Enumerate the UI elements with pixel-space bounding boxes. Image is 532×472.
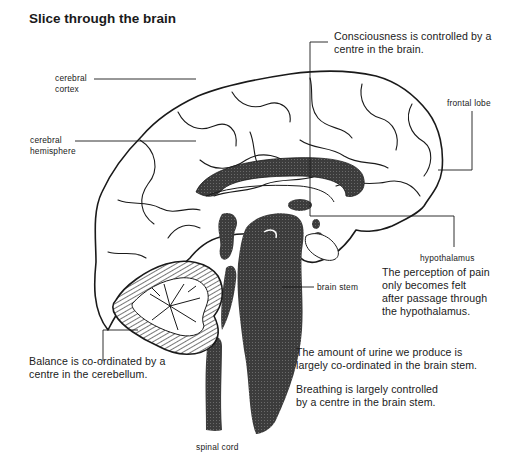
label-hypothalamus: hypothalamus: [420, 253, 475, 264]
note-consciousness: Consciousness is controlled by a centre …: [334, 30, 491, 56]
label-line: hemisphere: [30, 146, 76, 157]
note-line: The perception of pain: [382, 266, 490, 279]
label-cerebral-hemisphere: cerebral hemisphere: [30, 135, 76, 157]
label-line: cortex: [55, 84, 87, 95]
brain-stem: [237, 213, 303, 434]
note-line: largely co-ordinated in the brain stem.: [296, 359, 477, 372]
label-line: cerebral: [30, 135, 76, 146]
spinal-cord: [206, 337, 223, 431]
note-line: after passage through: [382, 292, 490, 305]
brain-illustration: [0, 0, 532, 472]
note-line: by a centre in the brain stem.: [296, 396, 438, 409]
note-urine: The amount of urine we produce is largel…: [296, 346, 477, 372]
note-line: Balance is co-ordinated by a: [29, 355, 165, 368]
note-line: The amount of urine we produce is: [296, 346, 477, 359]
note-breathing: Breathing is largely controlled by a cen…: [296, 383, 438, 409]
note-line: centre in the cerebellum.: [29, 368, 165, 381]
label-brain-stem: brain stem: [317, 282, 358, 293]
label-cerebral-cortex: cerebral cortex: [55, 73, 87, 95]
note-pain: The perception of pain only becomes felt…: [382, 266, 490, 318]
note-line: centre in the brain.: [334, 43, 491, 56]
note-line: Breathing is largely controlled: [296, 383, 438, 396]
note-line: only becomes felt: [382, 279, 490, 292]
label-line: cerebral: [55, 73, 87, 84]
note-balance: Balance is co-ordinated by a centre in t…: [29, 355, 165, 381]
label-spinal-cord: spinal cord: [196, 442, 239, 453]
label-frontal-lobe: frontal lobe: [447, 98, 491, 109]
note-line: the hypothalamus.: [382, 305, 490, 318]
note-line: Consciousness is controlled by a: [334, 30, 491, 43]
